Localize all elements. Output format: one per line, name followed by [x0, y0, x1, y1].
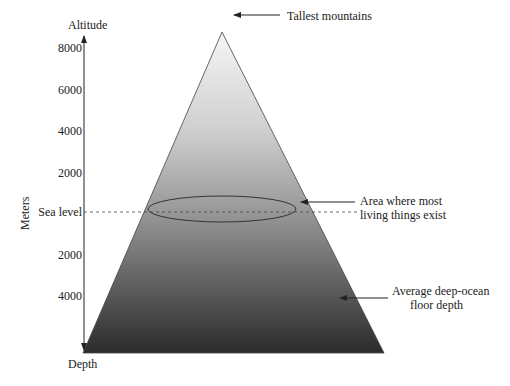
tick-2000-below: 2000 [58, 248, 82, 262]
tick-4000-below: 4000 [58, 289, 82, 303]
tick-2000-above: 2000 [58, 166, 82, 180]
peak-annotation: Tallest mountains [287, 9, 372, 23]
diagram-canvas [0, 0, 510, 386]
tick-6000: 6000 [58, 83, 82, 97]
floor-annotation-line1: Average deep-ocean [392, 284, 489, 298]
zone-annotation-line1: Area where most [360, 194, 442, 208]
elevation-triangle [83, 32, 384, 353]
sea-level-label: Sea level [38, 205, 82, 219]
tick-8000: 8000 [58, 41, 82, 55]
tick-4000: 4000 [58, 124, 82, 138]
floor-annotation-line2: floor depth [410, 298, 463, 312]
altitude-label: Altitude [68, 18, 107, 32]
meters-label: Meters [18, 197, 33, 230]
depth-label: Depth [68, 357, 97, 371]
zone-annotation-line2: living things exist [360, 208, 446, 222]
